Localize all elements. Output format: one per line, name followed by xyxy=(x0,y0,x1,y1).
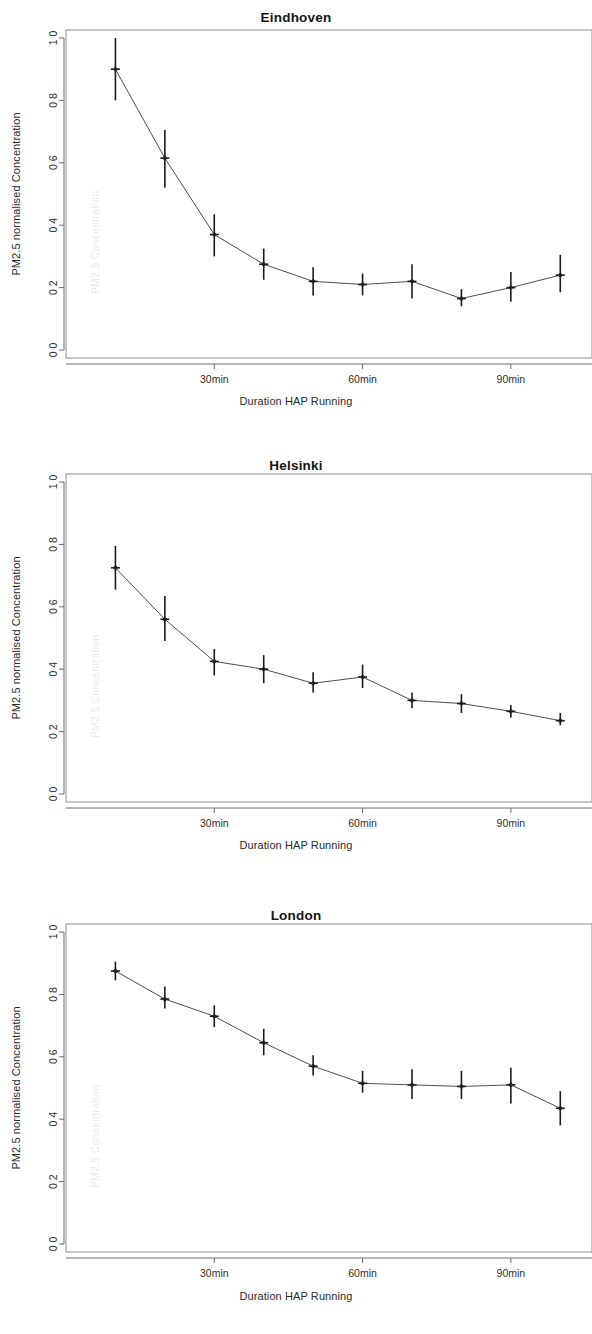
y-tick-label: 0 0 xyxy=(47,1237,59,1252)
plot-frame xyxy=(66,924,592,1252)
y-tick-label: 1 0 xyxy=(47,31,59,46)
x-tick-label: 90min xyxy=(497,1267,526,1279)
x-tick-label: 30min xyxy=(200,817,229,829)
y-tick-label: 0 2 xyxy=(47,724,59,739)
chart-svg-london: LondonPM2.5 Concentration0 00 20 40 60 8… xyxy=(0,890,592,1334)
data-point xyxy=(408,693,417,709)
y-tick-label: 0 0 xyxy=(47,787,59,802)
chart-svg-eindhoven: EindhovenPM2.5 Concentration0 00 20 40 6… xyxy=(0,0,592,440)
y-tick-label: 0 8 xyxy=(47,93,59,108)
data-point xyxy=(160,130,169,188)
x-axis-title: Duration HAP Running xyxy=(239,1290,352,1302)
data-point xyxy=(160,596,169,641)
x-tick-label: 90min xyxy=(497,373,526,385)
data-point xyxy=(358,274,367,296)
data-point xyxy=(309,267,318,295)
data-point xyxy=(506,705,515,717)
data-point xyxy=(210,649,219,676)
data-point xyxy=(259,655,268,683)
y-tick-label: 0 6 xyxy=(47,599,59,614)
data-point xyxy=(210,1005,219,1027)
y-tick-label: 0 8 xyxy=(47,987,59,1002)
x-tick-label: 60min xyxy=(348,817,377,829)
y-axis-title: PM2.5 normalised Concentration xyxy=(10,1006,22,1169)
data-point xyxy=(358,665,367,688)
chart-panel-helsinki: HelsinkiPM2.5 Concentration0 00 20 40 60… xyxy=(0,440,592,890)
data-point xyxy=(457,289,466,306)
watermark-text: PM2.5 Concentration xyxy=(90,1084,101,1187)
chart-panel-london: LondonPM2.5 Concentration0 00 20 40 60 8… xyxy=(0,890,592,1334)
data-point xyxy=(408,1069,417,1099)
data-point xyxy=(506,272,515,302)
data-point xyxy=(556,255,565,292)
data-point xyxy=(556,1091,565,1125)
data-point xyxy=(259,249,268,280)
plot-frame xyxy=(66,30,592,358)
watermark-text: PM2.5 Concentration xyxy=(90,190,101,293)
watermark-text: PM2.5 Concentration xyxy=(90,634,101,737)
y-tick-label: 0 0 xyxy=(47,343,59,358)
data-point xyxy=(309,1055,318,1075)
chart-title-eindhoven: Eindhoven xyxy=(261,10,332,25)
chart-svg-helsinki: HelsinkiPM2.5 Concentration0 00 20 40 60… xyxy=(0,440,592,890)
y-tick-label: 0 6 xyxy=(47,155,59,170)
data-point xyxy=(210,214,219,256)
x-tick-label: 60min xyxy=(348,373,377,385)
plot-frame xyxy=(66,474,592,802)
series-line xyxy=(115,568,560,721)
data-point xyxy=(556,713,565,725)
data-point xyxy=(111,546,120,590)
x-tick-label: 30min xyxy=(200,1267,229,1279)
y-tick-label: 0 6 xyxy=(47,1049,59,1064)
x-axis-title: Duration HAP Running xyxy=(239,839,352,851)
y-tick-label: 0 4 xyxy=(47,1112,59,1127)
y-tick-label: 0 2 xyxy=(47,1174,59,1189)
series-line xyxy=(115,69,560,298)
series-line xyxy=(115,971,560,1108)
x-tick-label: 90min xyxy=(497,817,526,829)
x-tick-label: 30min xyxy=(200,373,229,385)
data-point xyxy=(408,264,417,298)
data-point xyxy=(457,1071,466,1099)
chart-panel-eindhoven: EindhovenPM2.5 Concentration0 00 20 40 6… xyxy=(0,0,592,440)
y-axis-title: PM2.5 normalised Concentration xyxy=(10,112,22,275)
data-point xyxy=(111,962,120,981)
x-tick-label: 60min xyxy=(348,1267,377,1279)
data-point xyxy=(506,1068,515,1104)
data-point xyxy=(457,694,466,713)
y-tick-label: 1 0 xyxy=(47,925,59,940)
y-tick-label: 0 4 xyxy=(47,662,59,677)
y-tick-label: 0 4 xyxy=(47,218,59,233)
data-point xyxy=(259,1029,268,1056)
y-tick-label: 0 8 xyxy=(47,537,59,552)
data-point xyxy=(111,38,120,100)
chart-title-helsinki: Helsinki xyxy=(269,458,322,473)
y-tick-label: 1 0 xyxy=(47,475,59,490)
y-tick-label: 0 2 xyxy=(47,280,59,295)
y-axis-title: PM2.5 normalised Concentration xyxy=(10,556,22,719)
chart-title-london: London xyxy=(271,908,322,923)
data-point xyxy=(309,672,318,692)
x-axis-title: Duration HAP Running xyxy=(239,395,352,407)
figure-page: EindhovenPM2.5 Concentration0 00 20 40 6… xyxy=(0,0,592,1334)
